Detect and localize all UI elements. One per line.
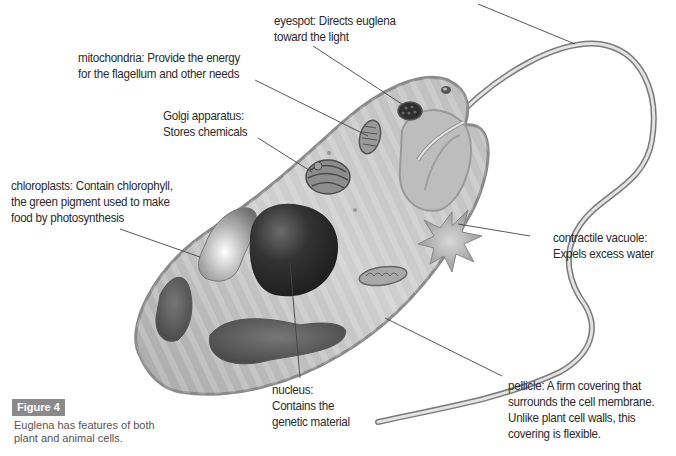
label-contractile-vacuole: contractile vacuole: Expels excess water (553, 230, 654, 262)
label-eyespot: eyespot: Directs euglena toward the ligh… (274, 13, 396, 45)
label-chloroplasts: chloroplasts: Contain chlorophyll, the g… (11, 178, 173, 226)
label-mitochondria: mitochondria: Provide the energy for the… (78, 50, 240, 82)
pellicle-leader (385, 318, 502, 376)
flagellum-leader (478, 4, 575, 44)
euglena-diagram: eyespot: Directs euglena toward the ligh… (0, 0, 676, 456)
label-nucleus: nucleus: Contains the genetic material (272, 382, 350, 430)
mitochondria-leader (255, 80, 368, 136)
figure-caption: Euglena has features of both plant and a… (14, 419, 155, 445)
chloroplasts-leader (120, 229, 200, 257)
figure-badge: Figure 4 (12, 399, 65, 416)
label-pellicle: pellicle: A firm covering that surrounds… (508, 378, 654, 442)
label-golgi: Golgi apparatus: Stores chemicals (163, 108, 247, 140)
eyespot-leader (313, 46, 405, 106)
